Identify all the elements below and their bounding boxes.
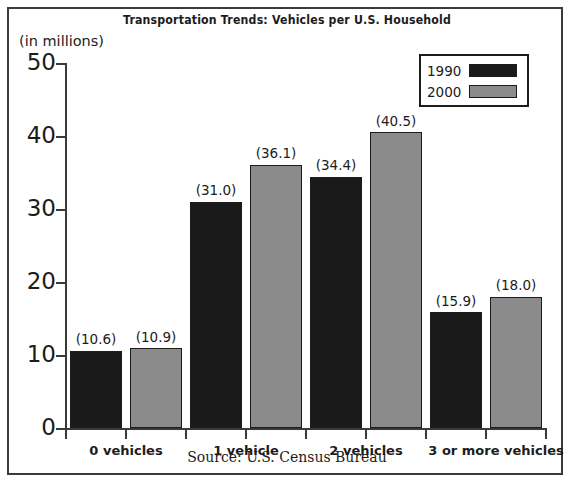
bar-1990-1-vehicle [190, 202, 242, 428]
chart-title: Transportation Trends: Vehicles per U.S.… [42, 12, 531, 27]
bar-1990-3-or-more-vehicles [430, 312, 482, 428]
x-tick-4 [305, 430, 307, 439]
y-axis-line [65, 65, 67, 430]
x-tick-2 [185, 430, 187, 439]
bar-1990-0-vehicles [70, 351, 122, 428]
chart-source-note: Source: U.S. Census Bureau [9, 449, 565, 465]
x-tick-1 [125, 430, 127, 439]
bar-value-1990-1-vehicle: (31.0) [196, 182, 237, 198]
y-tick-label-10: 10 [27, 342, 56, 366]
bar-value-2000-1-vehicle: (36.1) [256, 145, 297, 161]
chart-page: Transportation Trends: Vehicles per U.S.… [0, 0, 572, 483]
y-axis-unit-label: (in millions) [19, 33, 104, 49]
bar-2000-3-or-more-vehicles [490, 297, 542, 428]
bar-value-2000-0-vehicles: (10.9) [136, 329, 177, 345]
y-tick-label-0: 0 [41, 415, 56, 439]
x-tick-7 [485, 430, 487, 439]
x-tick-0 [65, 430, 67, 439]
bar-value-1990-3-or-more-vehicles: (15.9) [436, 293, 477, 309]
x-tick-5 [365, 430, 367, 439]
plot-area: 0 10 20 30 40 50 [65, 65, 547, 430]
y-tick-label-40: 40 [27, 123, 56, 147]
chart-frame: Transportation Trends: Vehicles per U.S.… [7, 7, 563, 475]
y-tick-label-50: 50 [27, 50, 56, 74]
y-tick-label-30: 30 [27, 196, 56, 220]
bar-value-2000-3-or-more-vehicles: (18.0) [496, 277, 537, 293]
x-tick-8 [545, 430, 547, 439]
x-tick-6 [425, 430, 427, 439]
bar-value-1990-2-vehicles: (34.4) [316, 157, 357, 173]
bar-value-1990-0-vehicles: (10.6) [76, 331, 117, 347]
cropped-top-text [0, 0, 572, 5]
x-tick-3 [245, 430, 247, 439]
bar-2000-0-vehicles [130, 348, 182, 428]
bar-1990-2-vehicles [310, 177, 362, 428]
bar-2000-2-vehicles [370, 132, 422, 428]
bar-value-2000-2-vehicles: (40.5) [376, 113, 417, 129]
y-tick-label-20: 20 [27, 269, 56, 293]
bar-2000-1-vehicle [250, 165, 302, 429]
